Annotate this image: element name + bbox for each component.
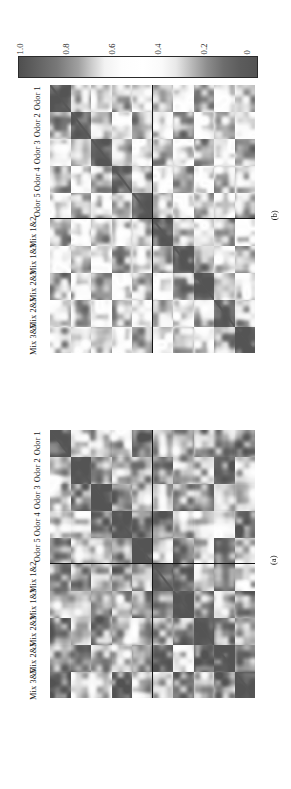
colorbar-gradient-bar xyxy=(18,56,258,78)
row-label-text: Odor 4 xyxy=(34,167,42,191)
row-label-mix-2-3: Mix 2&3 xyxy=(0,618,50,645)
panel-a-caption-text: (a) xyxy=(270,556,279,565)
row-label-mix-2-5: Mix 2&5 xyxy=(0,299,50,326)
colorbar: 1.0 0.8 0.6 0.4 0.2 0 xyxy=(18,24,258,80)
colorbar-tick-0: 1.0 xyxy=(16,43,25,54)
row-label-text: Odor 2 xyxy=(34,113,42,137)
colorbar-tick-4: 0.2 xyxy=(200,43,209,54)
row-label-mix-2-3: Mix 2&3 xyxy=(0,273,50,300)
row-label-odor-5: Odor 5 xyxy=(0,192,50,219)
panel-b-divider-vertical xyxy=(152,85,153,353)
row-label-text: Odor 4 xyxy=(34,512,42,536)
row-label-odor-2: Odor 2 xyxy=(0,112,50,139)
panel-b-caption-text: (b) xyxy=(270,210,279,220)
row-label-mix-1-2: Mix 1&2 xyxy=(0,564,50,591)
panel-a: Odor 1Odor 2Odor 3Odor 4Odor 5Mix 1&2Mix… xyxy=(0,430,291,780)
row-label-text: Odor 5 xyxy=(34,194,42,218)
row-label-text: Odor 1 xyxy=(34,86,42,110)
panel-a-divider-vertical xyxy=(152,430,153,698)
row-label-odor-2: Odor 2 xyxy=(0,457,50,484)
panel-a-matrix xyxy=(50,430,255,698)
row-label-mix-3-5: Mix 3&5 xyxy=(0,671,50,698)
row-label-odor-1: Odor 1 xyxy=(0,430,50,457)
row-label-text: Odor 3 xyxy=(34,485,42,509)
panel-b-row-labels: Odor 1Odor 2Odor 3Odor 4Odor 5Mix 1&2Mix… xyxy=(0,85,50,353)
panel-b-matrix xyxy=(50,85,255,353)
row-label-mix-1-3: Mix 1&3 xyxy=(0,591,50,618)
row-label-text: Mix 3&5 xyxy=(30,669,38,701)
row-label-text: Mix 3&5 xyxy=(30,324,38,356)
row-label-text: Odor 1 xyxy=(34,431,42,455)
row-label-odor-4: Odor 4 xyxy=(0,165,50,192)
row-label-mix-2-5: Mix 2&5 xyxy=(0,644,50,671)
row-label-text: Odor 3 xyxy=(34,140,42,164)
panel-a-caption: (a) xyxy=(262,556,286,565)
panel-a-row-labels: Odor 1Odor 2Odor 3Odor 4Odor 5Mix 1&2Mix… xyxy=(0,430,50,698)
row-label-odor-3: Odor 3 xyxy=(0,139,50,166)
row-label-mix-1-3: Mix 1&3 xyxy=(0,246,50,273)
colorbar-tick-1: 0.8 xyxy=(62,43,71,54)
row-label-odor-1: Odor 1 xyxy=(0,85,50,112)
colorbar-tick-5: 0 xyxy=(243,50,252,54)
row-label-odor-3: Odor 3 xyxy=(0,484,50,511)
colorbar-tick-2: 0.6 xyxy=(108,43,117,54)
colorbar-tick-3: 0.4 xyxy=(154,43,163,54)
row-label-odor-5: Odor 5 xyxy=(0,537,50,564)
row-label-mix-1-2: Mix 1&2 xyxy=(0,219,50,246)
row-label-text: Odor 5 xyxy=(34,539,42,563)
panel-b-caption: (b) xyxy=(262,211,286,220)
row-label-text: Odor 2 xyxy=(34,458,42,482)
panel-b: Odor 1Odor 2Odor 3Odor 4Odor 5Mix 1&2Mix… xyxy=(0,85,291,430)
row-label-odor-4: Odor 4 xyxy=(0,510,50,537)
colorbar-tick-labels: 1.0 0.8 0.6 0.4 0.2 0 xyxy=(18,24,258,54)
row-label-mix-3-5: Mix 3&5 xyxy=(0,326,50,353)
